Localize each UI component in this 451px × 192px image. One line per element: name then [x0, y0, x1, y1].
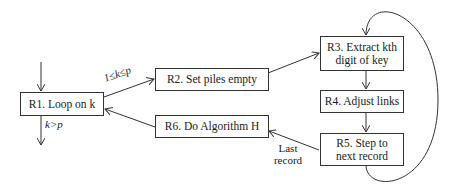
node-r5: R5. Step to next record: [320, 133, 404, 166]
edge-r6-r1: [105, 109, 155, 127]
node-r6-label: R6. Do Algorithm H: [165, 120, 260, 133]
node-r4-label: R4. Adjust links: [325, 95, 399, 108]
node-r4: R4. Adjust links: [320, 90, 404, 113]
node-r5-label-line1: R5. Step to: [336, 137, 387, 150]
node-r1: R1. Loop on k: [20, 92, 104, 116]
node-r3-label-line1: R3. Extract kth: [327, 41, 397, 54]
edge-label-exit-condition: k>p: [45, 118, 63, 130]
node-r1-label: R1. Loop on k: [29, 98, 95, 111]
edge-label-last-record: Last record: [270, 142, 306, 166]
node-r2-label: R2. Set piles empty: [167, 73, 257, 86]
node-r3: R3. Extract kth digit of key: [320, 36, 404, 71]
edge-label-record: record: [270, 154, 306, 166]
edge-r2-r3: [268, 53, 319, 73]
node-r3-label-line2: digit of key: [335, 54, 388, 67]
edge-label-last: Last: [270, 142, 306, 154]
node-r6: R6. Do Algorithm H: [155, 115, 269, 138]
node-r2: R2. Set piles empty: [155, 68, 269, 91]
node-r5-label-line2: next record: [336, 150, 388, 163]
